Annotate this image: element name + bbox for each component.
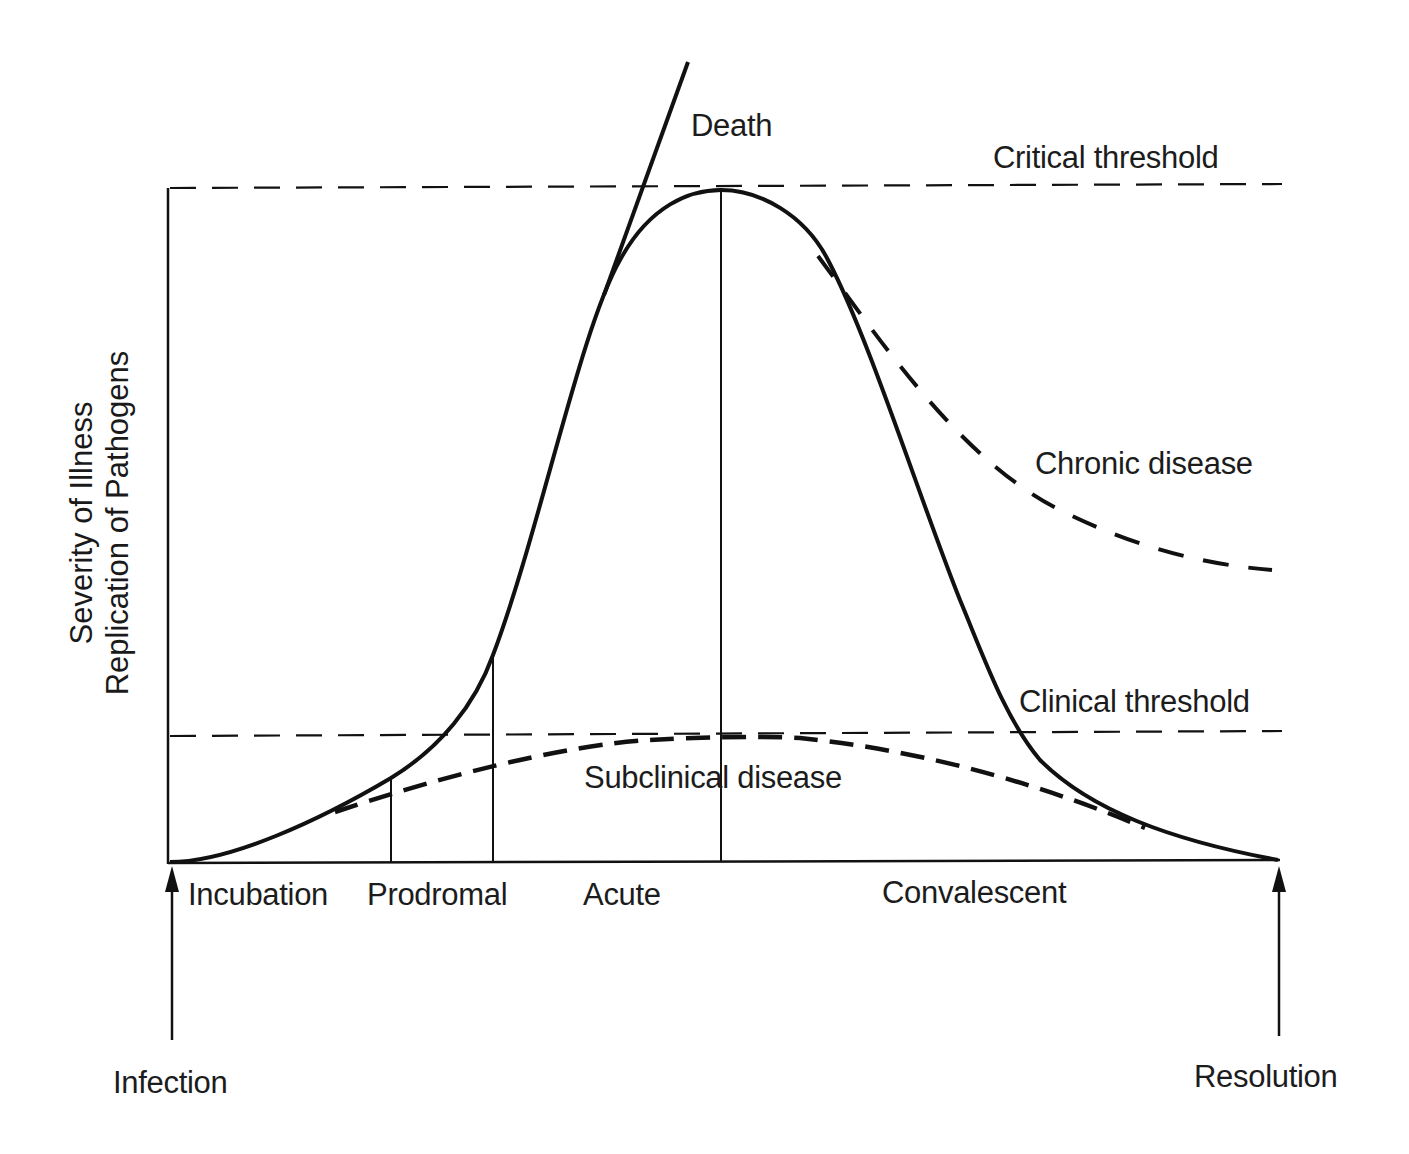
x-axis — [168, 860, 1280, 863]
stage-incubation-label: Incubation — [188, 877, 328, 913]
chronic-disease-curve — [818, 256, 1272, 570]
infection-arrow-head — [165, 866, 179, 892]
clinical-threshold-label: Clinical threshold — [1019, 684, 1250, 720]
y-axis-label-line1: Severity of Illness — [64, 313, 100, 733]
y-axis-label-line2: Replication of Pathogens — [100, 313, 136, 733]
y-axis-label: Severity of Illness Replication of Patho… — [64, 313, 136, 733]
subclinical-disease-label: Subclinical disease — [584, 760, 842, 796]
death-trajectory-line — [604, 62, 688, 295]
resolution-arrow-head — [1272, 866, 1286, 892]
stage-convalescent-label: Convalescent — [882, 875, 1066, 911]
critical-threshold-line — [170, 184, 1282, 188]
resolution-label: Resolution — [1194, 1059, 1337, 1095]
disease-course-diagram: Severity of Illness Replication of Patho… — [0, 0, 1409, 1154]
death-label: Death — [691, 108, 772, 144]
infection-label: Infection — [113, 1065, 228, 1101]
chronic-disease-label: Chronic disease — [1035, 446, 1253, 482]
stage-prodromal-label: Prodromal — [367, 877, 507, 913]
stage-acute-label: Acute — [583, 877, 661, 913]
critical-threshold-label: Critical threshold — [993, 140, 1218, 176]
